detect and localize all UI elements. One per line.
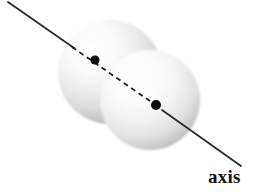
molecule-figure: axis xyxy=(0,0,270,192)
nucleus-lower-right xyxy=(151,100,161,110)
molecule-diagram-canvas xyxy=(0,0,270,192)
axis-label: axis xyxy=(208,167,240,186)
molecule-body xyxy=(58,20,200,150)
rotation-axis-solid-upper xyxy=(8,2,74,48)
nucleus-upper-left xyxy=(90,55,99,64)
